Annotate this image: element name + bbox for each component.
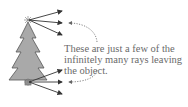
caption-text: These are just a few of the infinitely m… [64, 43, 188, 76]
ray-diagram: These are just a few of the infinitely m… [0, 0, 188, 107]
top-rays [29, 11, 62, 35]
tree-icon [9, 22, 47, 85]
